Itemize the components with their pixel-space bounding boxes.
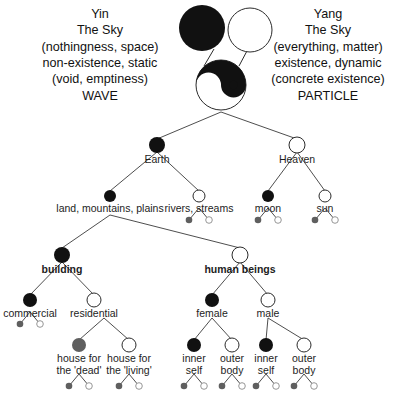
node-label-earth: Earth <box>97 154 217 166</box>
edges-layer <box>30 112 325 340</box>
edge-land-to-building <box>62 215 110 248</box>
sun-leaves-black-dot <box>312 217 319 224</box>
female-outer-leaves-white-dot <box>239 383 246 390</box>
node-label-residential: residential <box>34 308 154 320</box>
node-land[interactable] <box>104 190 116 202</box>
node-sun[interactable] <box>319 190 331 202</box>
nodes-layer <box>23 137 331 352</box>
rivers-leaves-black-dot <box>186 217 193 224</box>
edge-residential-to-living <box>104 318 129 340</box>
rivers-leaves-white-dot <box>206 217 213 224</box>
node-male-outer[interactable] <box>297 338 311 352</box>
yin-description-block: Yin The Sky (nothingness, space) non-exi… <box>16 6 184 104</box>
node-male[interactable] <box>261 293 275 307</box>
moon-leaves-black-dot <box>255 217 262 224</box>
edge-male-to-outer <box>268 318 304 340</box>
moon-leaves-white-dot <box>275 217 282 224</box>
node-moon[interactable] <box>262 190 274 202</box>
yang-description-block: Yang The Sky (everything, matter) existe… <box>262 6 394 104</box>
sun-leaves-white-dot <box>332 217 339 224</box>
yin-black-circle <box>179 5 225 51</box>
node-label-male: male <box>208 308 328 320</box>
female-inner-leaves-white-dot <box>201 383 208 390</box>
node-female-outer[interactable] <box>225 338 239 352</box>
diagram-canvas: Yin The Sky (nothingness, space) non-exi… <box>0 0 395 403</box>
node-female[interactable] <box>205 293 219 307</box>
female-inner-leaves-black-dot <box>181 383 188 390</box>
node-earth[interactable] <box>149 137 165 153</box>
node-house-living[interactable] <box>122 338 136 352</box>
node-residential[interactable] <box>87 293 101 307</box>
female-outer-leaves-black-dot <box>219 383 226 390</box>
commercial-leaves-black-dot <box>17 321 24 328</box>
node-label-male-outer: outer body <box>244 353 364 377</box>
taiji-glyph <box>196 60 246 110</box>
node-rivers[interactable] <box>193 190 205 202</box>
male-outer-leaves-black-dot <box>291 383 298 390</box>
node-male-inner[interactable] <box>259 338 273 352</box>
node-label-building: building <box>2 264 122 276</box>
house-dead-leaves-black-dot <box>66 383 73 390</box>
commercial-leaves-white-dot <box>37 321 44 328</box>
edge-symbol-to-earth <box>157 112 221 139</box>
yin-yang-symbol <box>179 5 272 110</box>
node-house-dead[interactable] <box>72 338 86 352</box>
node-female-inner[interactable] <box>187 338 201 352</box>
male-outer-leaves-white-dot <box>311 383 318 390</box>
house-living-leaves-white-dot <box>136 383 143 390</box>
male-inner-leaves-black-dot <box>253 383 260 390</box>
node-human-beings[interactable] <box>232 247 248 263</box>
male-inner-leaves-white-dot <box>273 383 280 390</box>
edge-male-to-inner <box>266 318 268 340</box>
node-label-human-beings: human beings <box>180 264 300 276</box>
node-label-heaven: Heaven <box>237 154 357 166</box>
edge-residential-to-dead <box>79 318 104 340</box>
edge-female-to-outer <box>212 318 232 340</box>
edge-female-to-inner <box>194 318 212 340</box>
node-label-sun: sun <box>265 203 385 215</box>
edge-symbol-to-heaven <box>221 112 297 139</box>
node-commercial[interactable] <box>23 293 37 307</box>
node-heaven[interactable] <box>289 137 305 153</box>
node-building[interactable] <box>54 247 70 263</box>
house-dead-leaves-white-dot <box>86 383 93 390</box>
house-living-leaves-black-dot <box>116 383 123 390</box>
edge-land-to-human-beings <box>110 215 240 248</box>
